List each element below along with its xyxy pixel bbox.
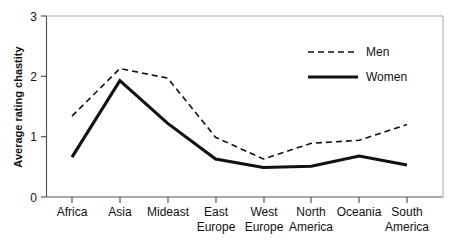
x-label-africa-line1: Africa bbox=[57, 205, 88, 219]
x-label-east-europe-line2: Europe bbox=[197, 220, 236, 234]
x-label-mideast-line1: Mideast bbox=[147, 205, 190, 219]
line-chart: 3 2 1 0 Average rating chastity Africa A… bbox=[0, 0, 459, 241]
chart-legend: Men Women bbox=[308, 45, 407, 84]
chart-page: 3 2 1 0 Average rating chastity Africa A… bbox=[0, 0, 459, 241]
x-label-asia-line1: Asia bbox=[108, 205, 132, 219]
y-tick-label-3: 3 bbox=[30, 10, 37, 24]
legend-label-men: Men bbox=[366, 45, 389, 59]
x-axis-labels: Africa Asia Mideast East West North Ocea… bbox=[57, 205, 430, 234]
series-line-women bbox=[72, 81, 407, 168]
y-tick-label-2: 2 bbox=[30, 70, 37, 84]
x-label-south-america-line1: South bbox=[391, 205, 422, 219]
y-axis-ticks: 3 2 1 0 bbox=[30, 10, 46, 205]
x-label-west-europe-line2: Europe bbox=[245, 220, 284, 234]
x-axis-ticks bbox=[72, 197, 407, 203]
x-label-oceania-line1: Oceania bbox=[337, 205, 382, 219]
x-label-south-america-line2: America bbox=[385, 220, 429, 234]
plot-frame bbox=[47, 16, 444, 197]
y-tick-label-1: 1 bbox=[30, 130, 37, 144]
x-label-north-america-line2: America bbox=[289, 220, 333, 234]
x-label-north-america-line1: North bbox=[296, 205, 325, 219]
x-label-east-europe-line1: East bbox=[204, 205, 229, 219]
x-label-west-europe-line1: West bbox=[250, 205, 278, 219]
y-axis-title: Average rating chastity bbox=[12, 45, 24, 167]
legend-label-women: Women bbox=[366, 70, 407, 84]
y-tick-label-0: 0 bbox=[30, 191, 37, 205]
